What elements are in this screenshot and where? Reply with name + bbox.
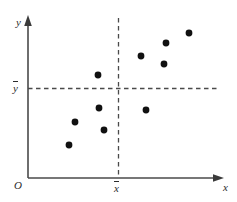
y-mean-label-text: y <box>13 81 18 94</box>
y-axis-label: y <box>16 17 21 28</box>
data-point <box>138 53 145 60</box>
x-mean-label: x <box>114 181 119 194</box>
data-point <box>143 107 150 114</box>
data-point <box>72 119 79 126</box>
data-point <box>95 72 102 79</box>
data-point <box>96 105 103 112</box>
x-mean-label-text: x <box>114 181 119 194</box>
y-mean-label: y <box>13 81 18 94</box>
scatter-plot-figure: y x O y x <box>0 0 237 202</box>
data-point <box>163 40 170 47</box>
data-point <box>101 127 108 134</box>
data-point <box>66 142 73 149</box>
data-point <box>186 30 193 37</box>
plot-canvas <box>0 0 237 202</box>
origin-label: O <box>14 180 22 191</box>
x-axis-label: x <box>223 182 228 193</box>
y-axis-arrowhead <box>24 15 32 26</box>
data-point <box>161 61 168 68</box>
